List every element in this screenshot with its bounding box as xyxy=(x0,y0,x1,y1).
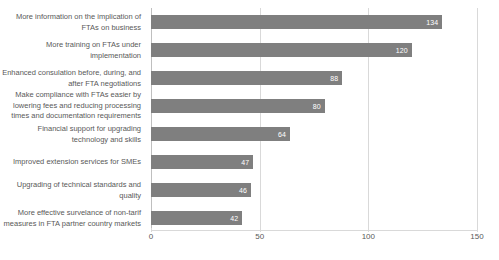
bar-row: 80 xyxy=(151,99,477,113)
bar[interactable]: 64 xyxy=(151,127,290,141)
category-label: Improved extension services for SMEs xyxy=(0,157,146,168)
bar-row: 47 xyxy=(151,155,477,169)
bar-value-label: 134 xyxy=(426,19,438,26)
bar[interactable]: 42 xyxy=(151,211,242,225)
bar-row: 46 xyxy=(151,183,477,197)
gridline-150 xyxy=(477,8,478,230)
bar-series: 134120888064474642 xyxy=(151,8,477,230)
bar-value-label: 88 xyxy=(330,75,338,82)
bar-value-label: 47 xyxy=(241,159,249,166)
x-tick-label: 0 xyxy=(149,232,153,241)
bar-value-label: 42 xyxy=(230,215,238,222)
bar[interactable]: 80 xyxy=(151,99,325,113)
bar[interactable]: 134 xyxy=(151,15,442,29)
bar-row: 88 xyxy=(151,71,477,85)
bar[interactable]: 46 xyxy=(151,183,251,197)
bar-row: 64 xyxy=(151,127,477,141)
bar-row: 42 xyxy=(151,211,477,225)
x-axis-line xyxy=(151,230,477,231)
bar-value-label: 64 xyxy=(278,131,286,138)
plot-area: 134120888064474642 xyxy=(151,8,477,230)
x-tick-label: 50 xyxy=(255,232,264,241)
x-axis-ticks: 050100150 xyxy=(151,232,477,248)
category-label: Enhanced consulation before, during, and… xyxy=(0,68,146,89)
category-label: More training on FTAs under implementati… xyxy=(0,40,146,61)
category-label: Financial support for upgrading technolo… xyxy=(0,124,146,145)
bar-value-label: 120 xyxy=(396,47,408,54)
bar-value-label: 80 xyxy=(313,103,321,110)
x-tick-label: 150 xyxy=(470,232,483,241)
bar-value-label: 46 xyxy=(239,187,247,194)
bar-chart: More information on the implication of F… xyxy=(0,0,499,260)
bar[interactable]: 120 xyxy=(151,43,412,57)
bar-row: 120 xyxy=(151,43,477,57)
x-tick-label: 100 xyxy=(362,232,375,241)
bar-row: 134 xyxy=(151,15,477,29)
category-label: More effective survelance of non-tarif m… xyxy=(0,208,146,229)
bar[interactable]: 88 xyxy=(151,71,342,85)
category-label: Upgrading of technical standards and qua… xyxy=(0,180,146,201)
category-axis-labels: More information on the implication of F… xyxy=(0,8,146,230)
bar[interactable]: 47 xyxy=(151,155,253,169)
category-label: More information on the implication of F… xyxy=(0,12,146,33)
category-label: Make compliance with FTAs easier by lowe… xyxy=(0,90,146,122)
